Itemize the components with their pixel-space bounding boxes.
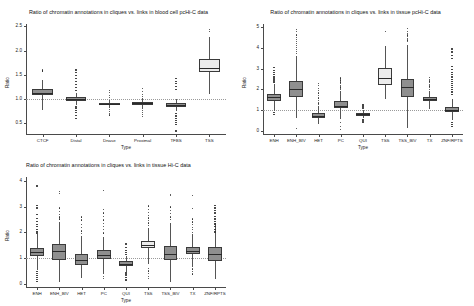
median-line <box>334 106 348 107</box>
plot-area: 01234RatioENHENH_BIVHETPCQUITSSTSS_BIVTX… <box>26 177 226 287</box>
outlier-point <box>209 31 210 32</box>
outlier-point <box>125 280 126 281</box>
outlier-point <box>125 243 126 244</box>
boxplot-tissue-hic: Ratio of chromatin annotations in clique… <box>0 153 237 306</box>
outlier-point <box>36 205 37 206</box>
outlier-point <box>170 210 171 211</box>
outlier-point <box>296 128 297 129</box>
plot-area: 0.51.01.52.02.5RatioCTCFDistalDnaseProxi… <box>26 24 226 134</box>
outlier-point <box>451 55 452 56</box>
outlier-point <box>36 277 37 278</box>
y-tick-label: 0.5 <box>6 120 22 125</box>
outlier-point <box>214 216 215 217</box>
y-tick-label: 0 <box>6 281 22 286</box>
x-tick-label: ENH_BIV <box>50 291 69 296</box>
outlier-point <box>192 221 193 222</box>
outlier-point <box>75 78 76 79</box>
x-tick-label: ENH <box>269 138 278 143</box>
x-tick-label: QUI <box>359 138 367 143</box>
x-tick <box>363 134 364 137</box>
outlier-point <box>103 190 104 191</box>
x-tick-label: TSS <box>205 138 214 143</box>
x-tick-label: PC <box>101 291 107 296</box>
y-axis <box>26 177 27 287</box>
outlier-point <box>175 124 176 125</box>
y-tick-label: 2.5 <box>6 23 22 28</box>
chart-title: Ratio of chromatin annotations in clique… <box>26 162 237 168</box>
outlier-point <box>451 94 452 95</box>
median-line <box>166 105 187 106</box>
median-line <box>378 78 392 79</box>
outlier-point <box>170 195 171 196</box>
outlier-point <box>148 270 149 271</box>
outlier-point <box>103 209 104 210</box>
outlier-point <box>170 219 171 220</box>
outlier-point <box>142 116 143 117</box>
outlier-point <box>103 226 104 227</box>
x-tick <box>452 134 453 137</box>
outlier-point <box>451 91 452 92</box>
y-tick <box>261 131 264 132</box>
outlier-point <box>362 122 363 123</box>
median-line <box>401 87 415 88</box>
outlier-point <box>103 223 104 224</box>
outlier-point <box>318 83 319 84</box>
outlier-point <box>103 212 104 213</box>
median-line <box>356 114 370 115</box>
outlier-point <box>103 216 104 217</box>
x-tick <box>143 134 144 137</box>
outlier-point <box>148 212 149 213</box>
outlier-point <box>148 278 149 279</box>
x-tick <box>170 287 171 290</box>
outlier-point <box>142 91 143 92</box>
outlier-point <box>273 82 274 83</box>
outlier-point <box>273 70 274 71</box>
outlier-point <box>109 90 110 91</box>
median-line <box>52 251 66 252</box>
y-tick <box>261 89 264 90</box>
outlier-point <box>192 227 193 228</box>
outlier-point <box>36 185 37 186</box>
outlier-point <box>109 114 110 115</box>
outlier-point <box>175 113 176 114</box>
outlier-point <box>148 225 149 226</box>
outlier-point <box>125 250 126 251</box>
outlier-point <box>192 224 193 225</box>
outlier-point <box>318 88 319 89</box>
y-axis-label: Ratio <box>5 230 10 241</box>
outlier-point <box>209 29 210 30</box>
outlier-point <box>407 41 408 42</box>
y-tick <box>24 26 27 27</box>
outlier-point <box>318 95 319 96</box>
outlier-point <box>75 84 76 85</box>
median-line <box>267 97 281 98</box>
outlier-point <box>125 274 126 275</box>
reference-line <box>26 99 226 100</box>
outlier-point <box>407 28 408 29</box>
outlier-point <box>103 219 104 220</box>
median-line <box>312 116 326 117</box>
outlier-point <box>59 193 60 194</box>
outlier-point <box>148 273 149 274</box>
outlier-point <box>340 129 341 130</box>
median-line <box>186 251 200 252</box>
outlier-point <box>59 211 60 212</box>
x-tick <box>430 134 431 137</box>
y-tick <box>261 69 264 70</box>
outlier-point <box>273 67 274 68</box>
outlier-point <box>214 231 215 232</box>
chart-title: Ratio of chromatin annotations in clique… <box>0 9 237 15</box>
outlier-point <box>340 83 341 84</box>
outlier-point <box>214 207 215 208</box>
x-tick <box>385 134 386 137</box>
outlier-point <box>125 252 126 253</box>
outlier-point <box>109 111 110 112</box>
x-axis-label: Type <box>121 298 131 303</box>
outlier-point <box>429 77 430 78</box>
outlier-point <box>273 114 274 115</box>
outlier-point <box>451 81 452 82</box>
outlier-point <box>175 122 176 123</box>
outlier-point <box>175 83 176 84</box>
outlier-point <box>451 76 452 77</box>
outlier-point <box>192 208 193 209</box>
